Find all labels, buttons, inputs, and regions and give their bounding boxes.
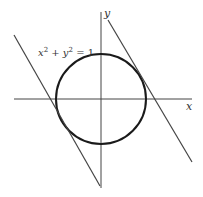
- circle-equation-label: x2 + y2 = 1: [38, 46, 94, 58]
- x-axis-label: x: [186, 100, 193, 113]
- diagram-canvas: y x x2 + y2 = 1: [0, 0, 203, 197]
- y-axis-label: y: [103, 7, 111, 20]
- tangent-line-right: [108, 20, 192, 162]
